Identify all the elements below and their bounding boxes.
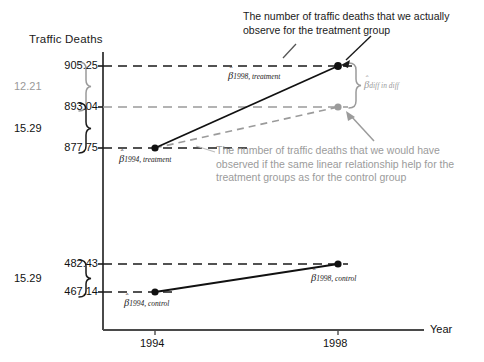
brace-diff-in-diff bbox=[349, 63, 361, 108]
diagram-canvas: Traffic Deaths 905.25 893.04 877.75 482.… bbox=[0, 0, 484, 362]
beta-symbol: β bbox=[119, 153, 124, 164]
beta-subscript: 1994, control bbox=[129, 299, 169, 308]
beta-symbol: β bbox=[311, 272, 316, 283]
ytick-label-893-04: 893.04 bbox=[50, 100, 98, 112]
beta-subscript: 1998, control bbox=[316, 274, 356, 283]
label-beta-1998-treatment: β̂1998, treatment bbox=[228, 70, 280, 81]
xtick-label-1994: 1994 bbox=[140, 337, 164, 349]
beta-symbol: β bbox=[364, 79, 369, 90]
label-beta-1994-treatment: β̂1994, treatment bbox=[119, 153, 171, 164]
ytick-label-467-14: 467.14 bbox=[50, 285, 98, 297]
ytick-label-877-75: 877.75 bbox=[50, 141, 98, 153]
counterfactual-line bbox=[155, 107, 338, 148]
arrow-top-annotation-tick bbox=[283, 44, 296, 58]
arrow-bottom-annotation-line bbox=[351, 116, 374, 141]
xtick-label-1998: 1998 bbox=[323, 337, 347, 349]
annotation-counterfactual: The number of traffic deaths that we wou… bbox=[216, 144, 468, 185]
point-counterfactual-1998 bbox=[334, 103, 341, 110]
point-control-1998 bbox=[334, 260, 341, 267]
y-axis-title: Traffic Deaths bbox=[29, 33, 103, 45]
beta-subscript: diff in diff bbox=[369, 81, 399, 90]
point-control-1994 bbox=[151, 288, 158, 295]
beta-symbol: β bbox=[228, 70, 233, 81]
beta-subscript: 1998, treatment bbox=[233, 72, 280, 81]
annotation-observed-treatment: The number of traffic deaths that we act… bbox=[243, 10, 475, 37]
beta-symbol: β bbox=[124, 297, 129, 308]
arrow-top-annotation-head bbox=[341, 60, 350, 68]
ytick-label-482-43: 482.43 bbox=[50, 257, 98, 269]
beta-subscript: 1994, treatment bbox=[124, 155, 171, 164]
point-treatment-1998 bbox=[334, 62, 342, 70]
leader-bottom-note bbox=[196, 146, 215, 152]
label-beta-1998-control: β̂1998, control bbox=[311, 272, 356, 283]
brace-label-15-29-treatment: 15.29 bbox=[14, 122, 42, 134]
x-axis-name: Year bbox=[430, 323, 452, 335]
arrow-top-annotation-line bbox=[346, 36, 371, 60]
ytick-label-905-25: 905.25 bbox=[50, 59, 98, 71]
label-beta-diff-in-diff: β̂diff in diff bbox=[364, 79, 399, 90]
brace-label-15-29-control: 15.29 bbox=[14, 272, 42, 284]
point-treatment-1994 bbox=[151, 144, 158, 151]
brace-label-12-21: 12.21 bbox=[14, 80, 42, 92]
label-beta-1994-control: β̂1994, control bbox=[124, 297, 169, 308]
